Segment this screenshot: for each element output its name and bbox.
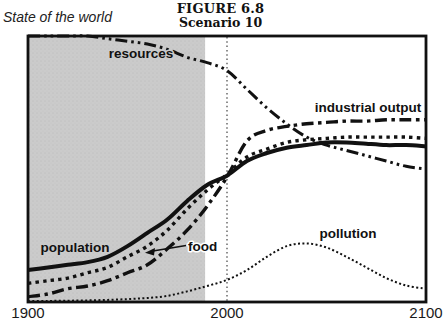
x-tick-2100: 2100: [409, 304, 442, 321]
series-industrial_output-label: industrial output: [315, 100, 422, 115]
x-tick-1900: 1900: [11, 304, 44, 321]
series-population-label: population: [41, 240, 110, 255]
series-food-label: food: [188, 239, 217, 254]
series-pollution-label: pollution: [320, 226, 377, 241]
x-tick-2000: 2000: [210, 304, 243, 321]
series-resources-label: resources: [109, 46, 174, 61]
